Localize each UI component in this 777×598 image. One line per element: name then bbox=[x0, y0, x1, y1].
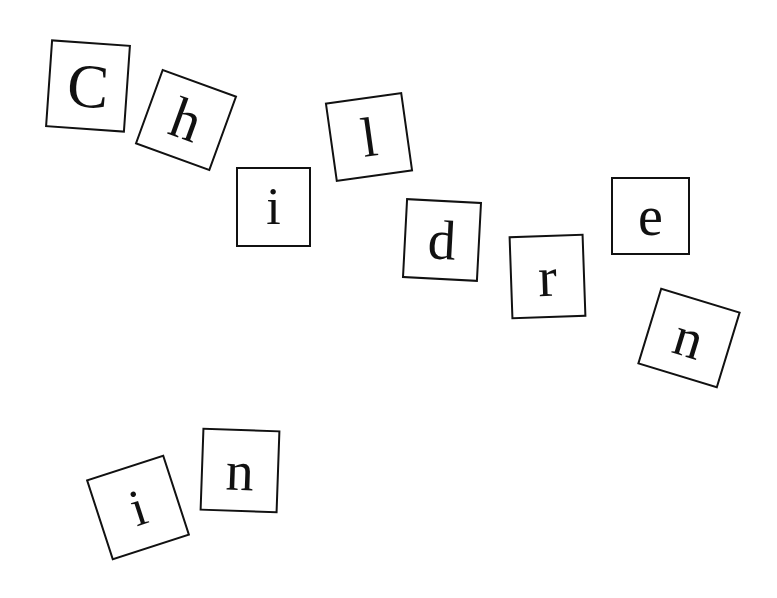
tile-letter: l bbox=[357, 108, 380, 166]
letter-tile-n: n bbox=[637, 287, 741, 388]
letter-tile-l: l bbox=[325, 92, 413, 182]
tile-letter: r bbox=[537, 248, 558, 305]
tile-letter: n bbox=[225, 442, 255, 499]
letter-tile-d: d bbox=[402, 198, 482, 282]
letter-tile-r: r bbox=[509, 234, 587, 320]
tile-letter: C bbox=[65, 54, 111, 119]
tile-letter: e bbox=[638, 188, 663, 244]
tile-letter: d bbox=[427, 211, 458, 268]
tile-letter: n bbox=[667, 307, 710, 369]
letter-tile-i: i bbox=[236, 167, 311, 247]
letter-tile-h: h bbox=[135, 69, 238, 172]
letter-tile-e: e bbox=[611, 177, 690, 255]
letter-tile-c: C bbox=[45, 39, 131, 132]
letter-tile-n: n bbox=[200, 428, 281, 514]
tile-letter: i bbox=[123, 481, 153, 535]
letter-tile-i: i bbox=[86, 454, 190, 560]
tile-letter: h bbox=[162, 88, 209, 152]
tile-letter: i bbox=[266, 181, 280, 233]
